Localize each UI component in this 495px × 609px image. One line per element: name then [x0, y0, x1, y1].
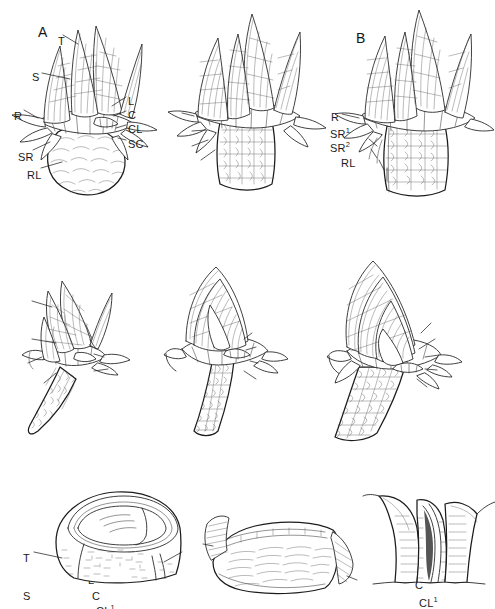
label-a-sc: SC — [128, 139, 144, 150]
panel-g: G S T "R" L (=CL1) C — [0, 470, 195, 609]
label-a-rl: RL — [27, 170, 41, 181]
label-a-r: R — [14, 111, 22, 122]
panel-i: I CL1 CL2 C — [355, 470, 495, 609]
panel-c-artwork — [335, 10, 494, 196]
panel-b: B R SR1 SR2 RL — [160, 0, 335, 220]
panel-h-artwork — [205, 516, 353, 594]
panel-b-artwork — [168, 14, 326, 190]
label-a-l: L — [128, 96, 134, 107]
panel-a: A T S R SR RL L C CL SC — [0, 0, 165, 220]
panel-d-artwork — [22, 281, 130, 434]
panel-letter-a: A — [38, 24, 48, 40]
label-a-cl: CL — [128, 124, 142, 135]
panel-h: H CL1 CL2 — [185, 470, 365, 609]
panel-c: C R SR1 SR2 sr2 sr1 RL — [325, 0, 495, 220]
panel-f-artwork — [327, 261, 462, 440]
panel-e-artwork — [164, 267, 288, 436]
panel-g-artwork — [56, 492, 181, 583]
panel-i-artwork — [363, 495, 495, 585]
label-a-sr: SR — [18, 152, 34, 163]
illustration-plate: A T S R SR RL L C CL SC — [0, 0, 495, 609]
label-a-t: T — [58, 36, 65, 47]
panel-f: F C CL1 SC1 CL2 SC2 — [325, 255, 495, 445]
label-a-s: S — [32, 72, 40, 83]
panel-d: D T S R RL L C CL1 SC1 — [0, 255, 165, 445]
label-a-c: C — [128, 110, 136, 121]
panel-e: E C CL1 SC1 CL2 — [160, 255, 335, 445]
